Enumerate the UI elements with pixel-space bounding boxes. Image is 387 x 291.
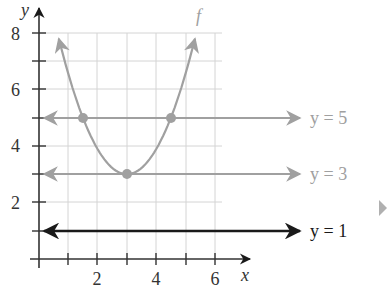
point [78,113,88,123]
x-tick-label: 2 [93,269,102,289]
x-tick-label: 4 [152,269,161,289]
axes [30,8,250,268]
line-label-y3: y = 3 [310,164,347,184]
y-tick-label: 6 [11,80,20,100]
x-axis-label: x [240,265,249,285]
curve-label-f: f [196,6,204,26]
line-label-y1: y = 1 [310,221,347,241]
y-tick-label: 8 [11,24,20,44]
y-tick-label: 4 [11,136,20,156]
x-tick-label: 6 [211,269,220,289]
point [122,169,132,179]
y-axis-label: y [19,0,29,20]
line-label-y5: y = 5 [310,108,347,128]
page-edge-triangle-icon [379,200,387,216]
function-graph: 2 4 6 2 4 6 8 y x f y = 5 y = 3 y = 1 [0,0,387,291]
point [166,113,176,123]
y-tick-label: 2 [11,193,20,213]
